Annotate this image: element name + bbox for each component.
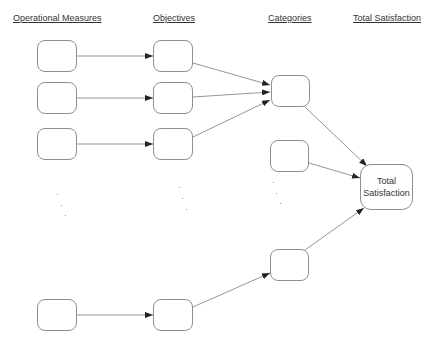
total-label-line2: Satisfaction	[363, 187, 410, 199]
edge-objective2-category1	[193, 92, 270, 97]
objective-node-1[interactable]	[153, 40, 193, 72]
total-label-line1: Total	[363, 175, 410, 187]
measure-node-1[interactable]	[37, 40, 77, 72]
objective-node-2[interactable]	[153, 82, 193, 114]
objective-node-n[interactable]	[153, 299, 193, 331]
edge-categoryn-total	[305, 208, 364, 250]
measure-node-2[interactable]	[37, 82, 77, 114]
total-satisfaction-node[interactable]: Total Satisfaction	[360, 164, 413, 210]
edge-objectiven-category-n	[193, 273, 270, 307]
edge-objective1-category1	[193, 63, 270, 85]
edge-category2-total	[309, 163, 360, 178]
category-node-1[interactable]	[271, 75, 310, 107]
objective-node-3[interactable]	[153, 128, 193, 160]
total-satisfaction-label: Total Satisfaction	[363, 175, 410, 199]
edge-objective3-category1	[193, 100, 270, 137]
category-node-n[interactable]	[270, 249, 309, 281]
measure-node-n[interactable]	[37, 299, 77, 331]
category-node-2[interactable]	[270, 140, 309, 172]
edge-category1-total	[305, 107, 367, 166]
measure-node-3[interactable]	[37, 128, 77, 160]
